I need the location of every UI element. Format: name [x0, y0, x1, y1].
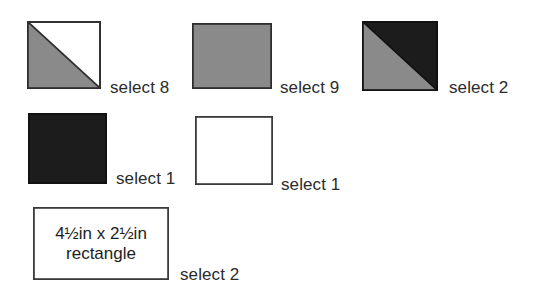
piece-solid-dark-square[interactable] [28, 113, 107, 184]
piece-solid-white-square[interactable] [195, 116, 273, 185]
label-select-8: select 8 [110, 79, 169, 96]
solid-white-square-svg [195, 116, 273, 185]
piece-half-square-triangle-gray-dark[interactable] [362, 21, 438, 91]
label-select-2-rectangle: select 2 [180, 266, 239, 283]
half-square-triangle-gray-dark-svg [362, 21, 438, 91]
piece-rectangle[interactable]: 4½in x 2½in rectangle [33, 207, 169, 280]
diagram-canvas: select 8 select 9 select 2 select 1 sele… [0, 0, 557, 294]
label-select-9: select 9 [280, 79, 339, 96]
label-select-1-dark: select 1 [116, 170, 175, 187]
label-select-2-top: select 2 [449, 79, 508, 96]
solid-dark-square-svg [28, 113, 107, 184]
half-square-triangle-gray-white-svg [27, 21, 101, 89]
rectangle-svg [33, 207, 169, 280]
piece-half-square-triangle-gray-white[interactable] [27, 21, 101, 89]
solid-gray-square-svg [192, 23, 272, 89]
label-select-1-white: select 1 [281, 176, 340, 193]
piece-solid-gray-square[interactable] [192, 23, 272, 89]
